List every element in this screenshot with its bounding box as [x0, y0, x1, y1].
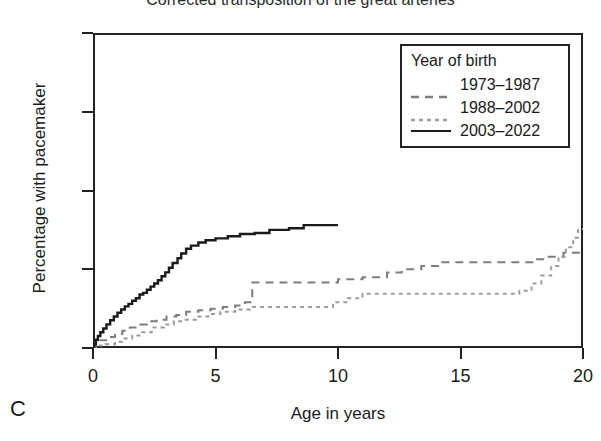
legend-title: Year of birth: [411, 52, 559, 70]
x-tick-label: 15: [431, 366, 491, 387]
x-tick-mark: [92, 348, 94, 359]
x-tick-mark: [582, 348, 584, 359]
panel-label: C: [10, 396, 26, 422]
legend-swatch: [411, 130, 451, 132]
legend-item: 2003–2022: [411, 119, 559, 142]
legend: Year of birth 1973–19871988–20022003–202…: [400, 44, 570, 148]
legend-label: 1973–1987: [460, 76, 540, 94]
y-axis-label: Percentage with pacemaker: [30, 38, 50, 338]
series-line: [93, 229, 583, 348]
x-tick-label: 5: [186, 366, 246, 387]
x-tick-label: 20: [553, 366, 601, 387]
x-tick-mark: [460, 348, 462, 359]
legend-item: 1988–2002: [411, 96, 559, 119]
legend-label: 2003–2022: [460, 122, 540, 140]
y-tick-mark: [82, 268, 93, 270]
x-axis-label: Age in years: [93, 404, 583, 424]
y-tick-mark: [82, 32, 93, 34]
y-tick-mark: [82, 190, 93, 192]
legend-item: 1973–1987: [411, 73, 559, 96]
x-tick-label: 0: [63, 366, 123, 387]
y-tick-mark: [82, 111, 93, 113]
figure-panel: Corrected transposition of the great art…: [0, 0, 601, 441]
x-tick-label: 10: [308, 366, 368, 387]
series-line: [93, 253, 583, 348]
x-tick-mark: [337, 348, 339, 359]
legend-items: 1973–19871988–20022003–2022: [411, 73, 559, 142]
x-tick-mark: [215, 348, 217, 359]
legend-label: 1988–2002: [460, 99, 540, 117]
series-line: [93, 225, 338, 348]
chart-title: Corrected transposition of the great art…: [0, 0, 601, 9]
